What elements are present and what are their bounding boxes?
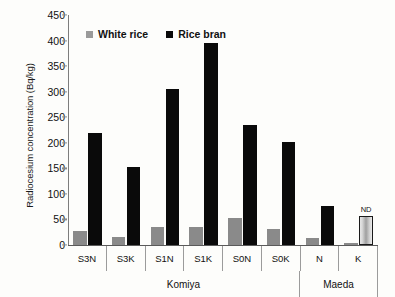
bar-s0n-rice-bran — [243, 125, 257, 245]
bar-chart: Radiocesium concentration (Bq/kg) 450400… — [0, 0, 395, 297]
y-axis-tick-mark — [62, 219, 67, 220]
bar-s0n-white-rice — [228, 218, 242, 245]
bar-k-rice-bran — [359, 216, 373, 245]
bar-s0k-rice-bran — [282, 142, 296, 245]
category-label-n: N — [301, 246, 340, 271]
category-label-s0n: S0N — [223, 246, 262, 271]
bar-n-white-rice — [306, 238, 320, 245]
category-row: S3NS3KS1NS1KS0NS0KNK — [68, 246, 378, 271]
bar-s3n-white-rice — [73, 231, 87, 245]
group-row: KomiyaMaeda — [68, 271, 378, 297]
y-axis-tick-mark — [62, 193, 67, 194]
bar-s1k-white-rice — [189, 227, 203, 245]
y-axis-tick-mark — [62, 66, 67, 67]
bar-s3k-white-rice — [112, 237, 126, 245]
bar-k-white-rice — [344, 243, 358, 245]
bar-s3k-rice-bran — [127, 167, 141, 245]
bar-s1n-rice-bran — [166, 89, 180, 245]
plot-area: ND — [68, 15, 378, 245]
y-axis-tick-mark — [62, 168, 67, 169]
category-label-s3k: S3K — [107, 246, 146, 271]
bar-n-rice-bran — [321, 206, 335, 245]
category-label-s3n: S3N — [68, 246, 107, 271]
y-axis-tick-mark — [62, 14, 67, 15]
category-label-k: K — [339, 246, 378, 271]
group-label-maeda: Maeda — [300, 271, 378, 297]
group-label-komiya: Komiya — [68, 271, 300, 297]
y-axis-tick-mark — [62, 117, 67, 118]
y-axis-tick-mark — [62, 244, 67, 245]
bar-s1k-rice-bran — [204, 43, 218, 245]
bar-s1n-white-rice — [151, 227, 165, 245]
category-axis: S3NS3KS1NS1KS0NS0KNK KomiyaMaeda — [68, 246, 378, 297]
category-label-s1n: S1N — [146, 246, 185, 271]
y-axis-tick-mark — [62, 142, 67, 143]
bar-s3n-rice-bran — [88, 133, 102, 245]
bar-s0k-white-rice — [267, 229, 281, 245]
bar-annotation-nd: ND — [361, 205, 372, 214]
category-label-s0k: S0K — [262, 246, 301, 271]
category-label-s1k: S1K — [184, 246, 223, 271]
y-axis-tick-mark — [62, 91, 67, 92]
y-axis-tick-mark — [62, 40, 67, 41]
